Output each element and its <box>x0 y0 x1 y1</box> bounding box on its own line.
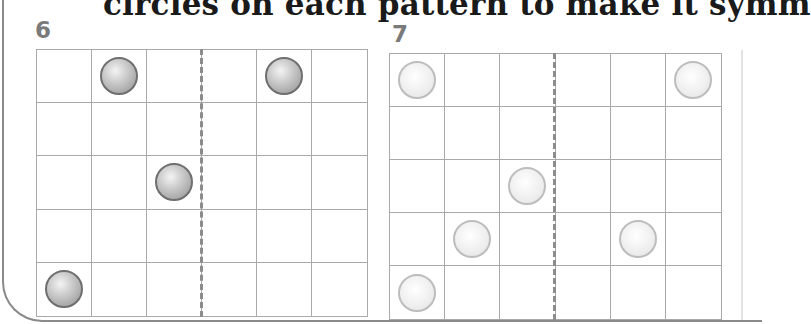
grid-cell[interactable] <box>390 160 445 213</box>
grid-cell[interactable] <box>556 160 611 213</box>
next-panel-edge <box>741 50 743 320</box>
circle-icon <box>155 163 193 201</box>
grid-cell[interactable] <box>257 103 312 156</box>
grid-cell[interactable] <box>500 107 555 160</box>
circle-icon <box>398 61 436 99</box>
symmetry-axis-6 <box>200 49 203 317</box>
grid-cell[interactable] <box>147 263 202 316</box>
grid-cell[interactable] <box>92 103 147 156</box>
grid-cell[interactable] <box>666 107 721 160</box>
grid-cell[interactable] <box>445 213 500 266</box>
grid-cell[interactable] <box>556 54 611 107</box>
grid-cell[interactable] <box>147 50 202 103</box>
grid-cell[interactable] <box>390 54 445 107</box>
grid-cell[interactable] <box>666 160 721 213</box>
grid-cell[interactable] <box>257 156 312 209</box>
grid-cell[interactable] <box>257 263 312 316</box>
grid-cell[interactable] <box>445 54 500 107</box>
grid-cell[interactable] <box>500 266 555 319</box>
instruction-heading: circles on each pattern to make it symm <box>103 0 811 22</box>
circle-icon <box>619 220 657 258</box>
circle-icon <box>674 61 712 99</box>
grid-cell[interactable] <box>37 156 92 209</box>
grid-cell[interactable] <box>666 213 721 266</box>
grid-cell[interactable] <box>147 210 202 263</box>
symmetry-axis-7 <box>553 53 556 320</box>
grid-cell[interactable] <box>500 160 555 213</box>
grid-cell[interactable] <box>202 156 257 209</box>
grid-cell[interactable] <box>611 213 666 266</box>
grid-cell[interactable] <box>312 103 367 156</box>
circle-icon <box>265 57 303 95</box>
grid-cell[interactable] <box>92 156 147 209</box>
grid-cell[interactable] <box>257 210 312 263</box>
puzzle-number-6: 6 <box>35 17 51 43</box>
grid-cell[interactable] <box>37 263 92 316</box>
grid-cell[interactable] <box>312 263 367 316</box>
circle-icon <box>45 270 83 308</box>
puzzle-number-7: 7 <box>392 21 408 47</box>
grid-cell[interactable] <box>147 156 202 209</box>
grid-cell[interactable] <box>500 213 555 266</box>
grid-cell[interactable] <box>666 266 721 319</box>
grid-cell[interactable] <box>500 54 555 107</box>
grid-cell[interactable] <box>312 50 367 103</box>
grid-cell[interactable] <box>556 213 611 266</box>
grid-cell[interactable] <box>611 107 666 160</box>
grid-cell[interactable] <box>312 156 367 209</box>
grid-cell[interactable] <box>202 210 257 263</box>
grid-cell[interactable] <box>257 50 312 103</box>
grid-cell[interactable] <box>37 50 92 103</box>
grid-cell[interactable] <box>37 103 92 156</box>
circle-icon <box>453 220 491 258</box>
grid-cell[interactable] <box>92 50 147 103</box>
grid-cell[interactable] <box>445 107 500 160</box>
grid-cell[interactable] <box>611 266 666 319</box>
grid-cell[interactable] <box>202 103 257 156</box>
grid-cell[interactable] <box>37 210 92 263</box>
grid-cell[interactable] <box>611 54 666 107</box>
circle-icon <box>398 274 436 312</box>
grid-cell[interactable] <box>666 54 721 107</box>
grid-cell[interactable] <box>556 107 611 160</box>
grid-cell[interactable] <box>312 210 367 263</box>
grid-cell[interactable] <box>92 210 147 263</box>
grid-cell[interactable] <box>390 107 445 160</box>
grid-cell[interactable] <box>147 103 202 156</box>
grid-cell[interactable] <box>390 266 445 319</box>
circle-icon <box>100 57 138 95</box>
grid-cell[interactable] <box>445 266 500 319</box>
grid-cell[interactable] <box>202 50 257 103</box>
circle-icon <box>508 167 546 205</box>
grid-cell[interactable] <box>92 263 147 316</box>
grid-cell[interactable] <box>202 263 257 316</box>
grid-cell[interactable] <box>445 160 500 213</box>
grid-cell[interactable] <box>611 160 666 213</box>
grid-cell[interactable] <box>390 213 445 266</box>
grid-cell[interactable] <box>556 266 611 319</box>
